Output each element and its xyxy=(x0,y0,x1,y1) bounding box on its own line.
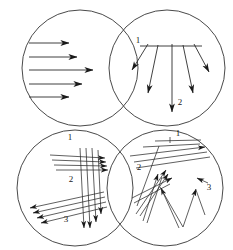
panel-bottom-left: 1 2 3 xyxy=(17,130,133,246)
vector-pattern-figure: 1 2 1 xyxy=(0,0,233,250)
label-top-right-2: 2 xyxy=(178,97,183,107)
arrow-g1-1 xyxy=(50,155,105,158)
panel-circle-bottom-right xyxy=(107,130,223,246)
arrow-r8 xyxy=(136,170,166,214)
arrow-fan-5 xyxy=(194,44,209,72)
panel-circle-top-left xyxy=(22,10,138,126)
arrow-g2-1 xyxy=(80,148,84,228)
panel-circle-bottom-left xyxy=(17,130,133,246)
arrow-r10 xyxy=(132,178,172,198)
arrow-fan-2 xyxy=(148,45,158,93)
arrow-group-1-up-right xyxy=(50,155,108,170)
fan-arrow-group xyxy=(132,44,209,112)
label-bottom-right-1: 1 xyxy=(176,128,181,138)
arrow-g2-3 xyxy=(92,148,96,222)
arrow-group-2-down xyxy=(80,148,101,228)
arrow-g2-4 xyxy=(98,150,101,214)
panel-bottom-right: 1 2 3 xyxy=(107,128,223,246)
label-bottom-left-2: 2 xyxy=(69,174,74,184)
arrow-g2-2 xyxy=(86,148,90,228)
arrow-r12 xyxy=(143,174,158,221)
arrow-r3 xyxy=(136,157,210,168)
label-bottom-right-3: 3 xyxy=(207,182,212,192)
arrow-fan-4 xyxy=(183,45,193,93)
parallel-arrow-group xyxy=(29,43,93,97)
arrow-r5 xyxy=(155,140,201,141)
arrow-r2 xyxy=(134,152,207,162)
arrow-r4 xyxy=(143,144,200,147)
label-bottom-left-3: 3 xyxy=(64,214,69,224)
arrow-r1 xyxy=(130,147,205,156)
figure-root: 1 2 1 xyxy=(0,0,233,250)
panel-top-left xyxy=(22,10,138,126)
random-arrow-group xyxy=(130,137,210,228)
arrow-r16 xyxy=(183,189,196,227)
label-bottom-left-1: 1 xyxy=(68,132,73,142)
label-top-right-1: 1 xyxy=(136,35,141,45)
arrow-g1-2 xyxy=(52,160,106,162)
label-bottom-right-2: 2 xyxy=(137,162,142,172)
arrow-r15 xyxy=(160,187,183,227)
panel-top-right: 1 2 xyxy=(109,10,225,126)
panel-circle-top-right xyxy=(109,10,225,126)
arrow-r17 xyxy=(196,190,205,215)
